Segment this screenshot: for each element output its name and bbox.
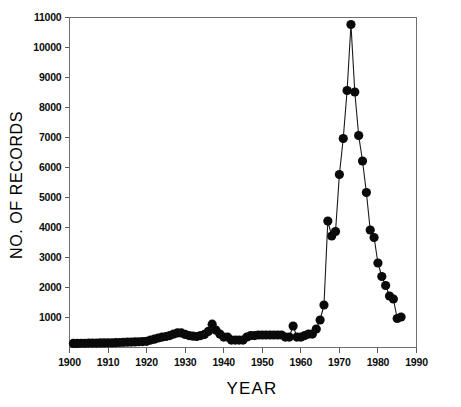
data-point: [312, 324, 321, 333]
data-point: [335, 170, 344, 179]
y-tick-label: 5000: [39, 191, 62, 203]
x-tick-label: 1910: [97, 356, 120, 368]
chart-figure: 1000200030004000500060007000800090001000…: [0, 0, 461, 407]
y-tick-label: 3000: [39, 251, 62, 263]
data-point: [323, 216, 332, 225]
x-tick-label: 1930: [174, 356, 197, 368]
data-point: [316, 315, 325, 324]
data-point: [369, 233, 378, 242]
y-tick-label: 11000: [34, 11, 62, 23]
data-point: [373, 258, 382, 267]
y-tick-label: 4000: [39, 221, 62, 233]
data-point: [343, 86, 352, 95]
data-point: [377, 272, 386, 281]
data-point: [350, 87, 359, 96]
x-tick-label: 1950: [251, 356, 274, 368]
data-point: [358, 156, 367, 165]
x-tick-label: 1960: [290, 356, 313, 368]
x-tick-label: 1920: [135, 356, 158, 368]
data-point: [346, 20, 355, 29]
x-tick-label: 1980: [367, 356, 390, 368]
y-tick-label: 2000: [39, 281, 62, 293]
data-point: [339, 134, 348, 143]
x-tick-label: 1970: [328, 356, 351, 368]
y-tick-label: 1000: [39, 311, 62, 323]
y-tick-label: 9000: [39, 71, 62, 83]
data-point: [396, 312, 405, 321]
y-tick-label: 7000: [39, 131, 62, 143]
x-axis-title: YEAR: [226, 379, 277, 398]
x-tick-label: 1940: [212, 356, 235, 368]
y-tick-label: 10000: [33, 41, 62, 53]
data-point: [389, 294, 398, 303]
y-tick-label: 6000: [39, 161, 62, 173]
y-axis-title: NO. OF RECORDS: [8, 111, 25, 259]
x-tick-label: 1990: [405, 356, 428, 368]
y-tick-label: 8000: [39, 101, 62, 113]
data-point: [319, 300, 328, 309]
line-chart: 1000200030004000500060007000800090001000…: [0, 0, 461, 407]
data-point: [354, 131, 363, 140]
x-tick-label: 1900: [58, 356, 81, 368]
data-point: [362, 188, 371, 197]
data-point: [289, 321, 298, 330]
data-point: [381, 281, 390, 290]
data-point: [331, 227, 340, 236]
